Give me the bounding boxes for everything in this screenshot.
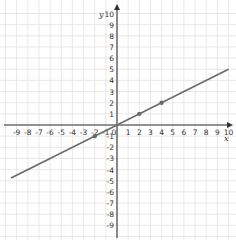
y-tick-label: -1	[107, 132, 115, 141]
data-point	[93, 134, 97, 138]
y-tick-label: 10	[104, 10, 114, 19]
y-tick-label: 5	[109, 65, 114, 74]
x-tick-label: -7	[35, 128, 43, 137]
series-line	[11, 69, 228, 178]
y-tick-label: 3	[109, 88, 114, 97]
x-tick-label: -9	[13, 128, 21, 137]
tick-labels: -9-8-7-6-5-4-3-2-10123456789101098765432…	[13, 10, 234, 231]
x-tick-label: -6	[46, 128, 54, 137]
x-tick-label: 5	[170, 128, 175, 137]
y-tick-label: -2	[107, 143, 115, 152]
x-tick-label: 3	[148, 128, 153, 137]
data-point	[159, 101, 163, 105]
x-tick-label: 7	[193, 128, 198, 137]
x-tick-label: -3	[80, 128, 88, 137]
y-tick-label: 4	[109, 76, 114, 85]
y-axis-label: y	[98, 10, 104, 19]
y-tick-label: -9	[107, 221, 115, 230]
y-tick-label: 1	[109, 110, 114, 119]
x-tick-label: -8	[24, 128, 32, 137]
x-tick-label: 9	[215, 128, 220, 137]
data-series	[11, 69, 228, 178]
y-tick-label: 8	[109, 32, 114, 41]
x-tick-label: 10	[224, 128, 234, 137]
x-tick-label: 4	[159, 128, 164, 137]
y-tick-label: 2	[109, 99, 114, 108]
y-tick-label: 9	[109, 21, 114, 30]
x-tick-label: 2	[137, 128, 142, 137]
x-tick-label: -4	[69, 128, 77, 137]
grid-lines	[0, 0, 236, 240]
coordinate-plane: x y -9-8-7-6-5-4-3-2-1012345678910109876…	[0, 0, 236, 240]
y-tick-label: -7	[107, 199, 115, 208]
x-tick-label: 8	[204, 128, 209, 137]
y-tick-label: 7	[109, 43, 114, 52]
x-tick-label: -5	[58, 128, 66, 137]
y-tick-label: -4	[107, 166, 115, 175]
y-tick-label: -5	[107, 177, 115, 186]
data-point	[137, 112, 141, 116]
y-tick-label: -8	[107, 210, 115, 219]
x-tick-label: 6	[182, 128, 187, 137]
y-tick-label: -6	[107, 188, 115, 197]
y-tick-label: 6	[109, 54, 114, 63]
x-tick-label: 1	[126, 128, 131, 137]
y-tick-label: -3	[107, 154, 115, 163]
y-axis-arrow-icon	[114, 4, 120, 10]
